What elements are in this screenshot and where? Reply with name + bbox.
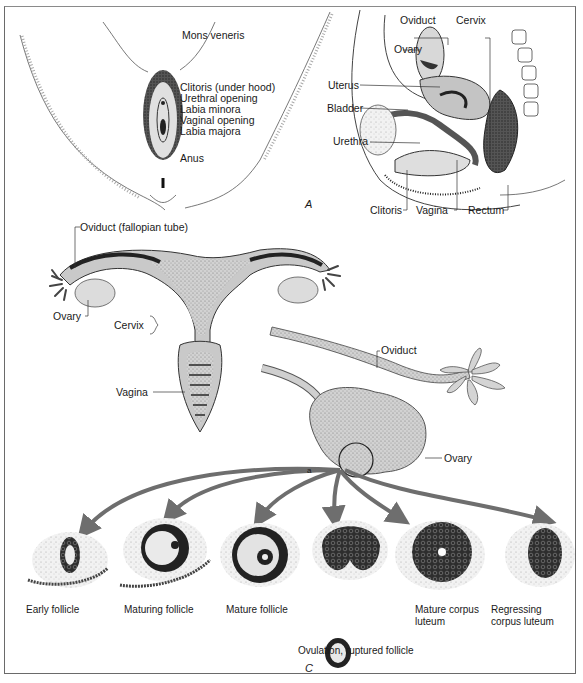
- label-uterus-cervix: Cervix: [114, 320, 144, 331]
- label-sagittal-rectum: Rectum: [468, 205, 504, 216]
- mature-corpus-luteum-drawing: [395, 520, 485, 590]
- label-c-ovary: Ovary: [444, 453, 472, 464]
- label-sagittal-clitoris: Clitoris: [370, 205, 402, 216]
- label-labia-majora: Labia majora: [180, 126, 241, 137]
- panel-letter-c: C: [305, 662, 313, 674]
- caption-early-follicle: Early follicle: [26, 604, 79, 616]
- panel-letter-a: A: [305, 198, 312, 210]
- sagittal-section-drawing: [352, 10, 565, 210]
- caption-mature-follicle: Mature follicle: [226, 604, 288, 616]
- label-mons-veneris: Mons veneris: [182, 30, 244, 41]
- maturing-follicle-drawing: [120, 518, 210, 586]
- label-sagittal-vagina: Vagina: [416, 205, 448, 216]
- caption-regressing-corpus-luteum: Regressing corpus luteum: [491, 604, 571, 627]
- early-follicle-drawing: [28, 532, 108, 588]
- label-uterus-ovary: Ovary: [53, 311, 81, 322]
- label-sagittal-uterus: Uterus: [328, 80, 359, 91]
- label-sagittal-ovary: Ovary: [394, 44, 422, 55]
- label-sagittal-bladder: Bladder: [327, 103, 363, 114]
- label-c-marker-a: a: [307, 465, 311, 476]
- uterus-cross-section-drawing: [50, 227, 340, 432]
- label-c-oviduct: Oviduct: [381, 345, 417, 356]
- caption-ovulation-ruptured-follicle: Ovulation, ruptured follicle: [298, 645, 414, 657]
- caption-mature-corpus-luteum: Mature corpus luteum: [415, 604, 483, 627]
- label-sagittal-urethra: Urethra: [333, 136, 368, 147]
- mature-follicle-drawing: [220, 523, 300, 587]
- label-anus: Anus: [180, 153, 204, 164]
- regressing-corpus-luteum-drawing: [505, 523, 575, 587]
- label-sagittal-cervix: Cervix: [456, 15, 486, 26]
- label-oviduct-fallopian-tube: Oviduct (fallopian tube): [80, 222, 188, 233]
- anatomy-illustration: [0, 0, 583, 683]
- external-genitalia-drawing: [20, 12, 332, 210]
- label-sagittal-oviduct: Oviduct: [400, 15, 436, 26]
- caption-maturing-follicle: Maturing follicle: [124, 604, 193, 616]
- label-uterus-vagina: Vagina: [116, 387, 148, 398]
